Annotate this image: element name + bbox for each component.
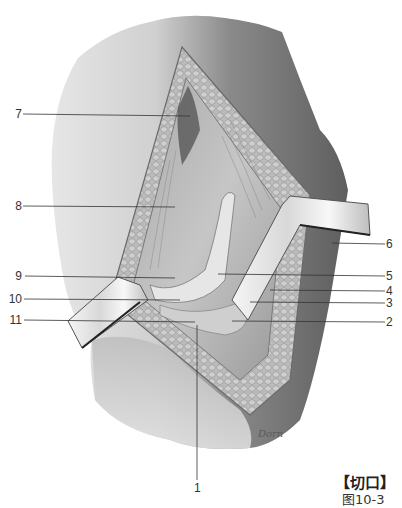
label-5: 5 — [386, 270, 393, 282]
artist-signature: Dorn — [258, 428, 283, 439]
label-1: 1 — [194, 482, 201, 494]
label-10: 10 — [2, 293, 22, 305]
label-6: 6 — [386, 238, 393, 250]
label-3: 3 — [386, 297, 393, 309]
label-9: 9 — [2, 270, 22, 282]
label-11: 11 — [2, 314, 22, 326]
label-8: 8 — [2, 200, 22, 212]
figure-number: 图10-3 — [342, 489, 385, 508]
label-2: 2 — [386, 316, 393, 328]
label-7: 7 — [2, 108, 22, 120]
